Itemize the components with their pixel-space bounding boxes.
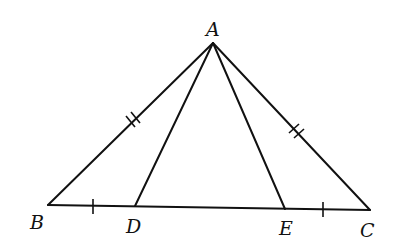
segment-bc (48, 205, 370, 210)
label-d: D (125, 215, 141, 237)
label-e: E (278, 217, 293, 239)
triangle-diagram: A B D E C (0, 0, 400, 249)
label-c: C (360, 219, 375, 241)
label-b: B (29, 211, 44, 233)
segment-ae (213, 43, 285, 209)
label-a: A (204, 18, 220, 40)
segment-ac (213, 43, 370, 210)
segment-ab (48, 43, 213, 205)
double-tick-ab (126, 112, 140, 127)
segment-ad (135, 43, 213, 206)
